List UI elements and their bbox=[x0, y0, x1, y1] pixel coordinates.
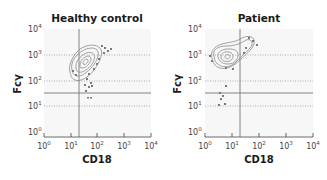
svg-text:104: 104 bbox=[28, 23, 42, 34]
svg-text:103: 103 bbox=[188, 49, 202, 60]
plot-area bbox=[44, 29, 151, 136]
y-tick-labels: 104 103 102 101 100 bbox=[188, 23, 202, 137]
svg-text:104: 104 bbox=[188, 23, 202, 34]
svg-text:101: 101 bbox=[225, 140, 239, 151]
svg-text:103: 103 bbox=[28, 49, 42, 60]
panel-title: Patient bbox=[238, 12, 281, 24]
panel-patient: Patient bbox=[172, 12, 320, 165]
x-axis-label: CD18 bbox=[244, 154, 274, 165]
svg-text:103: 103 bbox=[117, 140, 131, 151]
panel-healthy-control: Healthy control bbox=[12, 12, 158, 165]
plot-area bbox=[205, 29, 313, 136]
svg-text:104: 104 bbox=[144, 140, 158, 151]
svg-text:102: 102 bbox=[28, 75, 42, 86]
svg-text:100: 100 bbox=[198, 140, 212, 151]
svg-text:101: 101 bbox=[64, 140, 78, 151]
y-axis-label: Fcγ bbox=[12, 74, 23, 94]
svg-text:100: 100 bbox=[37, 140, 51, 151]
svg-text:102: 102 bbox=[252, 140, 266, 151]
x-axis-label: CD18 bbox=[82, 154, 112, 165]
x-tick-labels: 100 101 102 103 104 bbox=[37, 140, 158, 151]
y-tick-labels: 104 103 102 101 100 bbox=[28, 23, 42, 137]
svg-text:103: 103 bbox=[279, 140, 293, 151]
svg-text:102: 102 bbox=[188, 75, 202, 86]
svg-text:104: 104 bbox=[306, 140, 320, 151]
figure: Healthy control bbox=[0, 0, 327, 180]
panel-title: Healthy control bbox=[51, 12, 143, 24]
y-axis-label: Fcγ bbox=[172, 74, 183, 94]
svg-text:101: 101 bbox=[188, 100, 202, 111]
x-tick-labels: 100 101 102 103 104 bbox=[198, 140, 320, 151]
svg-text:101: 101 bbox=[28, 100, 42, 111]
svg-text:100: 100 bbox=[28, 126, 42, 137]
svg-text:102: 102 bbox=[90, 140, 104, 151]
svg-text:100: 100 bbox=[188, 126, 202, 137]
